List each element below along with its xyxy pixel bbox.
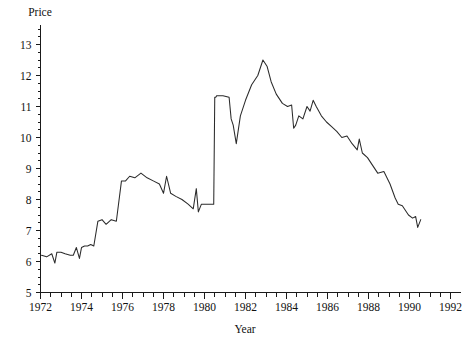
x-tick-label: 1976 (111, 301, 134, 313)
x-tick-label: 1986 (316, 301, 339, 313)
chart-canvas: 5678910111213 19721974197619781980198219… (0, 0, 473, 343)
data-series-group (42, 60, 421, 263)
x-tick-label: 1980 (193, 301, 216, 313)
y-tick-label: 6 (26, 256, 32, 268)
y-tick-label: 11 (20, 101, 31, 113)
x-tick-label: 1972 (29, 301, 52, 313)
x-tick-label: 1978 (152, 301, 175, 313)
x-axis-title: Year (234, 323, 255, 335)
x-tick-label: 1992 (439, 301, 462, 313)
y-tick-label: 12 (20, 70, 32, 82)
y-tick-label: 9 (26, 163, 32, 175)
price-vs-year-chart: 5678910111213 19721974197619781980198219… (0, 0, 473, 343)
y-tick-label: 13 (20, 39, 32, 51)
x-axis: 1972197419761978198019821984198619881990… (29, 293, 462, 313)
y-tick-label: 8 (26, 194, 32, 206)
data-line-0 (42, 60, 421, 263)
x-tick-label: 1982 (234, 301, 257, 313)
x-tick-label: 1984 (275, 301, 298, 313)
y-axis-title: Price (28, 6, 52, 18)
y-tick-label: 5 (26, 287, 32, 299)
y-tick-label: 7 (26, 225, 32, 237)
y-axis: 5678910111213 (20, 25, 41, 299)
x-tick-label: 1990 (398, 301, 421, 313)
x-tick-label: 1988 (357, 301, 380, 313)
y-tick-label: 10 (20, 132, 32, 144)
x-tick-label: 1974 (70, 301, 93, 313)
